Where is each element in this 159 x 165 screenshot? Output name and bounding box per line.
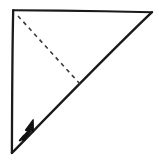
diagram-canvas [0,0,159,165]
paper-edge-left [12,10,13,153]
origami-fold-diagram: Paper folding step diagram [0,0,159,165]
